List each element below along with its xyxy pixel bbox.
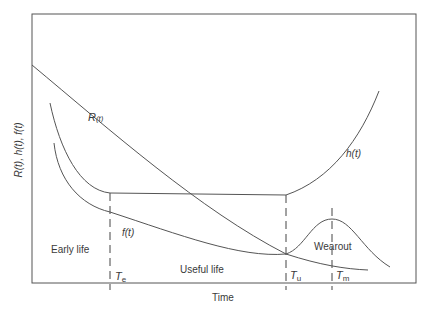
y-axis-label: R(t), h(t), f(t) [13,123,24,178]
r-curve [32,65,368,270]
wearout-label: Wearout [314,241,352,252]
x-axis-label: Time [212,292,234,303]
early-life-label: Early life [51,244,90,255]
bathtub-chart: R(t) h(t) f(t) Early life Useful life We… [0,0,433,316]
h-curve [50,91,379,195]
useful-life-label: Useful life [180,264,224,275]
f-label: f(t) [122,227,134,238]
tu-label: Tu [290,269,301,283]
tm-label: Tm [336,269,350,283]
te-label: Te [115,270,127,284]
r-label: R(t) [88,111,104,123]
h-label: h(t) [346,148,361,159]
